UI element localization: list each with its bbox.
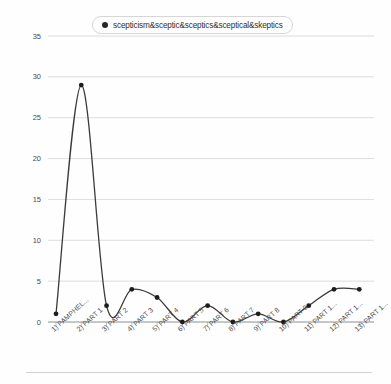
- data-point[interactable]: [332, 287, 337, 292]
- plot-svg: 05101520253035 1) PAMPHEL...2) PART 13) …: [0, 0, 391, 384]
- x-tick-label: 4) PART 3: [126, 306, 155, 333]
- x-tick-label: 6) PART 5: [176, 306, 205, 333]
- plot-area: 05101520253035 1) PAMPHEL...2) PART 13) …: [0, 0, 391, 384]
- y-tick-label: 0: [37, 318, 41, 327]
- series-line-scepticism: [56, 85, 359, 322]
- y-tick-labels: 05101520253035: [33, 32, 41, 327]
- y-tick-label: 25: [33, 113, 41, 122]
- data-point[interactable]: [129, 287, 134, 292]
- y-tick-label: 20: [33, 154, 41, 163]
- data-point[interactable]: [205, 303, 210, 308]
- data-point[interactable]: [357, 287, 362, 292]
- data-point[interactable]: [155, 295, 160, 300]
- series-data-points: [54, 83, 362, 325]
- y-tick-label: 35: [33, 32, 41, 41]
- data-point[interactable]: [54, 311, 59, 316]
- y-tick-label: 15: [33, 195, 41, 204]
- x-tick-labels: 1) PAMPHEL...2) PART 13) PART 24) PART 3…: [50, 296, 390, 333]
- gridlines: [48, 36, 374, 322]
- x-tick-label: 3) PART 2: [101, 306, 130, 333]
- bottom-divider: [26, 372, 372, 373]
- data-point[interactable]: [104, 303, 109, 308]
- y-tick-label: 5: [37, 277, 41, 286]
- x-tick-label: 5) PART 4: [151, 306, 180, 333]
- x-tick-label: 9) PART 8: [252, 306, 281, 333]
- y-tick-label: 30: [33, 72, 41, 81]
- data-point[interactable]: [79, 83, 84, 88]
- x-tick-label: 8) PART 7: [227, 306, 256, 333]
- data-point[interactable]: [256, 311, 261, 316]
- y-tick-label: 10: [33, 236, 41, 245]
- chart-container: scepticism&sceptic&sceptics&sceptical&sk…: [0, 0, 391, 384]
